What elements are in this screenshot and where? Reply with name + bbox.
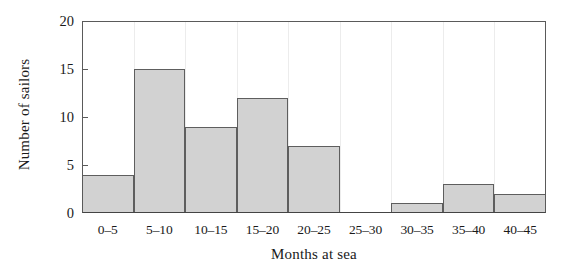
y-tick-label: 20 [44,13,74,30]
y-tick-label: 0 [44,205,74,222]
y-tick-label: 10 [44,109,74,126]
x-tick-label: 40–45 [494,222,546,238]
x-tick-label: 25–30 [340,222,392,238]
x-tick-label: 5–10 [134,222,186,238]
y-tick-label: 5 [44,157,74,174]
x-axis-title: Months at sea [82,246,546,263]
x-tick-label: 0–5 [82,222,134,238]
x-tick-labels: 0–55–1010–1515–2020–2525–3030–3535–4040–… [82,0,546,273]
x-tick-label: 20–25 [288,222,340,238]
x-tick-label: 30–35 [391,222,443,238]
x-tick-label: 10–15 [185,222,237,238]
x-tick-label: 15–20 [237,222,289,238]
x-tick-label: 35–40 [443,222,495,238]
histogram-figure: Number of sailors 05101520 0–55–1010–151… [0,0,565,273]
y-tick-label: 15 [44,61,74,78]
y-axis-title: Number of sailors [16,25,33,205]
